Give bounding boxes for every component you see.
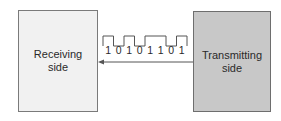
bit: 1 (145, 44, 156, 56)
bit-sequence: 1 0 1 0 1 1 0 1 (103, 44, 187, 56)
bit: 0 (166, 44, 177, 56)
bit: 1 (177, 44, 188, 56)
bit: 1 (103, 44, 114, 56)
bit: 1 (156, 44, 167, 56)
bit: 0 (114, 44, 125, 56)
bit: 0 (135, 44, 146, 56)
arrowhead-left-icon (98, 60, 104, 65)
signal-graphics (0, 0, 281, 121)
bit: 1 (124, 44, 135, 56)
